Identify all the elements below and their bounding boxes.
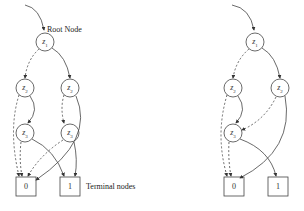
node-z2a-left-label: z2 bbox=[15, 83, 35, 94]
node-z2b-left-label: z2 bbox=[60, 83, 80, 94]
terminal-1-left-label: 1 bbox=[60, 182, 80, 191]
terminal-1-right-label: 1 bbox=[268, 182, 288, 191]
node-z3b-left-label: z3 bbox=[60, 128, 80, 139]
root-node-annotation: Root Node bbox=[47, 25, 82, 34]
node-z3a-left-label: z3 bbox=[15, 128, 35, 139]
root-entry-edge-right bbox=[232, 5, 254, 30]
node-z2b-right-label: z2 bbox=[270, 83, 290, 94]
node-z2a-right-label: z2 bbox=[223, 83, 243, 94]
terminal-0-right-label: 0 bbox=[224, 182, 244, 191]
node-z1-right-label: z1 bbox=[245, 37, 265, 48]
root-entry-edge bbox=[25, 5, 44, 30]
bdd-diagram-canvas bbox=[0, 0, 304, 211]
terminal-nodes-annotation: Terminal nodes bbox=[86, 182, 135, 191]
terminal-0-left-label: 0 bbox=[16, 182, 36, 191]
node-z1-left-label: z1 bbox=[35, 37, 55, 48]
node-z3-right-label: z3 bbox=[223, 128, 243, 139]
